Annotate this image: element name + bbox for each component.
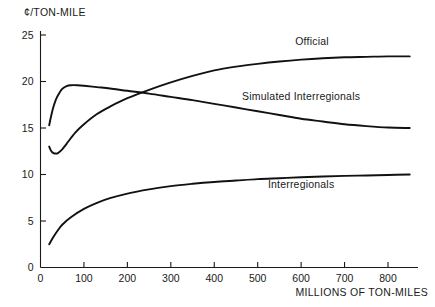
x-tick-label: 100 <box>75 272 93 284</box>
x-tick-label: 700 <box>336 272 354 284</box>
x-tick-label: 0 <box>38 272 44 284</box>
series-line-official <box>49 56 410 153</box>
series-line-interregionals <box>49 175 410 245</box>
series-label-simulated-interregionals: Simulated Interregionals <box>242 90 360 102</box>
x-tick-label: 800 <box>379 272 397 284</box>
x-tick-label: 400 <box>205 272 223 284</box>
x-axis-ticks: 0100200300400500600700800 <box>38 262 397 284</box>
y-axis-ticks: 0510152025 <box>22 29 46 273</box>
line-chart: 0510152025 0100200300400500600700800 Off… <box>0 0 435 307</box>
x-tick-label: 600 <box>292 272 310 284</box>
data-series-group <box>49 56 410 244</box>
x-axis-title: MILLIONS OF TON-MILES <box>295 286 428 298</box>
series-label-official: Official <box>295 35 329 47</box>
y-tick-label: 10 <box>22 168 34 180</box>
y-axis-title: ¢/TON-MILE <box>24 6 86 18</box>
series-label-interregionals: Interregionals <box>268 178 334 190</box>
x-tick-label: 200 <box>119 272 137 284</box>
x-tick-label: 300 <box>162 272 180 284</box>
y-tick-label: 25 <box>22 29 34 41</box>
y-tick-label: 15 <box>22 122 34 134</box>
axes-group <box>41 31 419 268</box>
y-tick-label: 5 <box>28 215 34 227</box>
y-tick-label: 20 <box>22 75 34 87</box>
y-tick-label: 0 <box>28 261 34 273</box>
chart-plot-area: 0510152025 0100200300400500600700800 Off… <box>0 0 435 307</box>
x-tick-label: 500 <box>249 272 267 284</box>
